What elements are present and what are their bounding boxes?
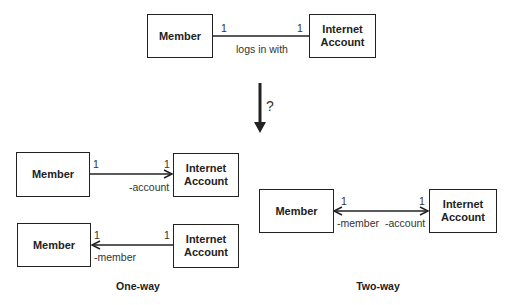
role-label-member: -member [94, 251, 136, 263]
multiplicity-left-oneway-2: 1 [94, 229, 100, 241]
multiplicity-right-top: 1 [297, 22, 303, 34]
class-name: Member [275, 205, 317, 218]
class-box-internet-account-twoway: Internet Account [429, 189, 497, 233]
multiplicity-right-oneway-2: 1 [164, 229, 170, 241]
multiplicity-right-oneway-1: 1 [164, 158, 170, 170]
role-label-account-twoway: -account [385, 217, 425, 229]
class-box-internet-account-oneway-1: Internet Account [173, 153, 239, 197]
caption-two-way: Two-way [356, 280, 400, 292]
class-name: Member [159, 30, 201, 43]
class-name: Internet Account [184, 162, 228, 188]
role-label-member-twoway: -member [337, 217, 379, 229]
multiplicity-left-oneway-1: 1 [93, 158, 99, 170]
class-box-member-twoway: Member [259, 189, 334, 233]
association-name-label: logs in with [236, 43, 288, 55]
multiplicity-left-top: 1 [221, 22, 227, 34]
class-name: Member [32, 168, 74, 181]
multiplicity-right-twoway: 1 [419, 195, 425, 207]
class-box-member-oneway-1: Member [16, 152, 90, 197]
transition-arrow-head-icon [254, 122, 266, 133]
class-name: Member [33, 239, 75, 252]
question-mark-label: ? [266, 98, 274, 114]
multiplicity-left-twoway: 1 [341, 195, 347, 207]
role-label-account: -account [129, 181, 169, 193]
caption-one-way: One-way [116, 280, 160, 292]
class-box-member-top: Member [147, 14, 213, 58]
class-box-member-oneway-2: Member [17, 223, 91, 267]
class-name: Internet Account [441, 198, 485, 224]
class-box-internet-account-oneway-2: Internet Account [173, 224, 239, 268]
class-name: Internet Account [184, 233, 228, 259]
class-name: Internet Account [321, 23, 365, 49]
class-box-internet-account-top: Internet Account [309, 14, 376, 58]
